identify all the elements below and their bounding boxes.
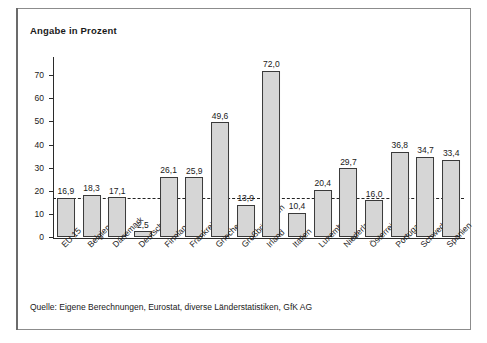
bar-value-label: 20,4 [314, 179, 331, 188]
bar-group: 34,7 [413, 59, 439, 237]
bar[interactable] [211, 122, 229, 237]
bar-value-label: 13,9 [237, 194, 254, 203]
y-axis-tick-label: 50 [20, 117, 44, 126]
bar-group: 25,9 [181, 59, 207, 237]
source-note: Quelle: Eigene Berechnungen, Eurostat, d… [30, 302, 312, 312]
y-axis-tick-label: 10 [20, 210, 44, 219]
chart-title: Angabe in Prozent [30, 25, 117, 36]
bar-group: 72,0 [259, 59, 285, 237]
bar-value-label: 36,8 [392, 141, 409, 150]
figure-frame-left-accent [16, 8, 18, 330]
bar[interactable] [416, 157, 434, 237]
bar-group: 17,1 [104, 59, 130, 237]
bar-group: 29,7 [336, 59, 362, 237]
bar-group: 10,4 [284, 59, 310, 237]
y-axis-tick-label: 40 [20, 141, 44, 150]
y-axis-tick-label: 60 [20, 94, 44, 103]
y-axis-tick-label: 30 [20, 164, 44, 173]
bar-group: 36,8 [387, 59, 413, 237]
bar-group: 16,0 [361, 59, 387, 237]
bar-group: 20,4 [310, 59, 336, 237]
figure-container: Angabe in Prozent 01020304050607016,9EU … [0, 0, 487, 343]
bar-value-label: 10,4 [289, 202, 306, 211]
y-axis-tick-label: 70 [20, 71, 44, 80]
bar-group: 16,9 [53, 59, 79, 237]
bar-group: 49,6 [207, 59, 233, 237]
bar-group: 13,9 [233, 59, 259, 237]
bar-value-label: 72,0 [263, 60, 280, 69]
bar-value-label: 16,0 [366, 190, 383, 199]
plot-area: 01020304050607016,9EU 1518,3Belgien17,1D… [53, 59, 464, 237]
bar-value-label: 2,5 [137, 221, 149, 230]
bar[interactable] [262, 71, 280, 237]
bar[interactable] [442, 160, 460, 237]
bar-group: 26,1 [156, 59, 182, 237]
bar-value-label: 18,3 [83, 184, 100, 193]
bar-value-label: 26,1 [160, 166, 177, 175]
y-axis-tick-mark [49, 237, 53, 238]
bar-value-label: 25,9 [186, 167, 203, 176]
bar-value-label: 33,4 [443, 149, 460, 158]
bar-group: 2,5 [130, 59, 156, 237]
bar-value-label: 16,9 [58, 187, 75, 196]
bar-value-label: 29,7 [340, 158, 357, 167]
bar-value-label: 17,1 [109, 187, 126, 196]
bar[interactable] [339, 168, 357, 237]
y-axis-tick-label: 20 [20, 187, 44, 196]
bar[interactable] [391, 152, 409, 237]
bar-group: 18,3 [79, 59, 105, 237]
bar-group: 33,4 [438, 59, 464, 237]
bar-value-label: 49,6 [212, 112, 229, 121]
y-axis-tick-label: 0 [20, 233, 44, 242]
bar-value-label: 34,7 [417, 146, 434, 155]
